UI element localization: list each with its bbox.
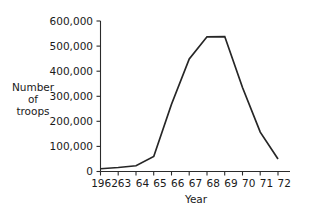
x-tick-label: 69 — [224, 177, 237, 189]
y-axis-ticks — [97, 21, 101, 172]
chart-canvas: 600,000 500,000 400,000 300,000 200,000 … — [0, 0, 317, 215]
y-tick-label: 0 — [86, 165, 93, 177]
y-axis-tick-labels: 600,000 500,000 400,000 300,000 200,000 … — [50, 15, 93, 178]
y-tick-label: 400,000 — [50, 65, 93, 77]
y-axis-title: Number of troops — [12, 81, 55, 117]
x-axis-tick-labels: 1962 63 64 65 66 67 68 69 70 71 72 — [91, 177, 291, 189]
y-tick-label: 300,000 — [50, 90, 93, 102]
x-tick-label: 67 — [189, 177, 202, 189]
x-tick-label: 70 — [242, 177, 255, 189]
x-tick-label: 72 — [278, 177, 291, 189]
x-axis-title: Year — [184, 193, 208, 205]
x-tick-label: 66 — [171, 177, 185, 189]
y-tick-label: 500,000 — [50, 40, 93, 52]
x-tick-label: 64 — [136, 177, 150, 189]
y-axis-title-line: troops — [16, 105, 49, 117]
x-tick-label: 1962 — [91, 177, 118, 189]
y-axis-title-line: Number — [12, 81, 55, 93]
x-axis-ticks — [101, 172, 279, 176]
y-tick-label: 100,000 — [50, 140, 93, 152]
x-tick-label: 65 — [153, 177, 166, 189]
x-tick-label: 71 — [260, 177, 273, 189]
y-tick-label: 600,000 — [50, 15, 93, 27]
y-axis-title-line: of — [28, 93, 38, 105]
x-tick-label: 63 — [118, 177, 131, 189]
troops-line-chart: 600,000 500,000 400,000 300,000 200,000 … — [0, 0, 317, 215]
x-tick-label: 68 — [207, 177, 220, 189]
data-series-line — [101, 37, 279, 169]
y-tick-label: 200,000 — [50, 115, 93, 127]
